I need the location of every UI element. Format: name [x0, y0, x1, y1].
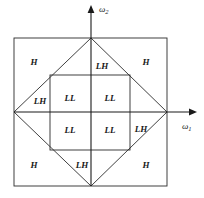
region-label-ll-top-left: LL [64, 93, 76, 103]
omega2-axis-label: ω2 [99, 4, 109, 15]
omega2-subscript: 2 [105, 8, 109, 15]
frequency-plane-diagram: ω2 ω1 H LH H LH LL LL LL LL LH H LH H [0, 0, 204, 198]
omega1-axis-label: ω1 [182, 121, 192, 132]
omega1-arrow-head [189, 109, 197, 116]
region-label-ll-bottom-right: LL [104, 125, 116, 135]
region-label-ll-bottom-left: LL [64, 125, 76, 135]
region-label-h-bottom-right: H [141, 160, 150, 170]
region-label-lh-bottom: LH [75, 160, 89, 170]
region-label-lh-top: LH [95, 61, 109, 71]
diagram-canvas: ω2 ω1 H LH H LH LL LL LL LL LH H LH H [0, 0, 204, 198]
region-label-ll-top-right: LL [104, 93, 116, 103]
region-label-h-top-right: H [141, 57, 150, 67]
region-label-lh-left: LH [33, 96, 47, 106]
region-label-h-top-left: H [29, 57, 38, 67]
region-label-h-bottom-left: H [29, 160, 38, 170]
omega2-arrow-head [88, 5, 95, 13]
omega1-subscript: 1 [188, 125, 191, 132]
region-label-lh-right: LH [134, 124, 148, 134]
